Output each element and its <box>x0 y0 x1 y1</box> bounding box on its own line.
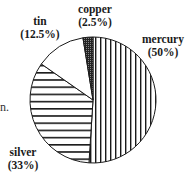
label-copper-pct: (2.5%) <box>70 16 120 29</box>
label-tin: tin (12.5%) <box>18 15 62 41</box>
label-silver: silver (33%) <box>0 146 46 172</box>
label-copper-name: copper <box>70 3 120 16</box>
label-tin-name: tin <box>18 15 62 28</box>
label-silver-name: silver <box>0 146 46 159</box>
label-tin-pct: (12.5%) <box>18 28 62 41</box>
label-copper: copper (2.5%) <box>70 3 120 29</box>
label-mercury: mercury (50%) <box>134 33 192 59</box>
label-mercury-name: mercury <box>134 33 192 46</box>
label-mercury-pct: (50%) <box>134 46 192 59</box>
cropped-text-fragment: n. <box>0 100 9 115</box>
label-silver-pct: (33%) <box>0 159 46 172</box>
